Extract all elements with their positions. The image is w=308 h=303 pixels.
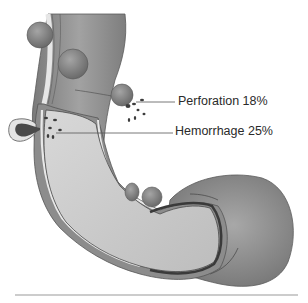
diverticulum: [27, 22, 53, 48]
hemorrhage-label: Hemorrhage 25%: [175, 124, 273, 138]
colon-diverticula-diagram: Perforation 18% Hemorrhage 25%: [0, 0, 308, 303]
colon-illustration: [0, 0, 308, 303]
diverticulum-perforated: [111, 84, 133, 106]
diverticulum: [125, 183, 139, 201]
diverticulum: [142, 187, 162, 207]
diverticulum: [58, 49, 88, 79]
perforation-label: Perforation 18%: [178, 94, 268, 108]
